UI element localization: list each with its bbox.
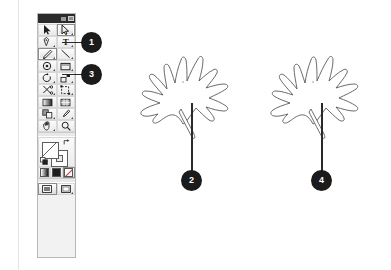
rotate-icon [42, 73, 52, 83]
leader-line-4 [321, 103, 323, 173]
callout-number: 4 [319, 176, 324, 185]
ellipse-icon [42, 61, 52, 71]
selection-arrow-icon [43, 25, 52, 35]
callout-number: 3 [89, 70, 94, 79]
leaf-anchor-point [182, 81, 184, 83]
callout-number: 1 [89, 38, 94, 47]
tool-rectangle[interactable] [57, 60, 76, 72]
blend-icon [42, 109, 53, 119]
left-leaf-artwork [124, 12, 242, 172]
tool-direct-selection[interactable] [57, 24, 76, 36]
paint-mode-row[interactable] [38, 167, 75, 178]
tools-panel[interactable]: T [37, 13, 76, 258]
tool-scissors[interactable] [38, 84, 57, 96]
callout-4[interactable]: 4 [312, 171, 331, 190]
callout-2[interactable]: 2 [182, 171, 201, 190]
tool-pen[interactable] [38, 36, 57, 48]
scissors-icon [42, 85, 53, 95]
callout-number: 2 [189, 176, 194, 185]
paint-none[interactable] [63, 167, 75, 178]
tool-hand[interactable] [38, 120, 57, 132]
tool-zoom[interactable] [57, 120, 76, 132]
paint-color[interactable] [50, 167, 62, 178]
screen-mode-row[interactable] [38, 183, 75, 195]
leader-line-2 [191, 103, 193, 173]
direct-selection-arrow-icon [61, 25, 70, 35]
tool-row[interactable] [38, 84, 75, 96]
tool-row[interactable] [38, 24, 75, 36]
paint-gradient[interactable] [38, 167, 50, 178]
screen-mode-normal[interactable] [38, 183, 57, 195]
screen-normal-icon [42, 185, 52, 193]
tool-rotate[interactable] [38, 72, 57, 84]
callout-3[interactable]: 3 [82, 65, 101, 84]
page-edge-rule [18, 0, 19, 270]
mesh-icon [60, 98, 71, 107]
tool-eyedropper[interactable] [57, 108, 76, 120]
tool-row[interactable] [38, 48, 75, 60]
tool-free-transform[interactable] [57, 84, 76, 96]
free-transform-icon [60, 85, 71, 95]
tool-mesh[interactable] [57, 96, 76, 108]
screen-full-icon [61, 185, 71, 193]
tool-pencil[interactable] [38, 48, 57, 60]
magnifier-icon [61, 121, 71, 131]
panel-grip-icon[interactable] [61, 17, 66, 21]
gradient-icon [42, 98, 53, 107]
tool-blend[interactable] [38, 108, 57, 120]
eyedropper-icon [60, 109, 71, 119]
close-icon[interactable] [68, 16, 74, 21]
leader-line-1 [62, 42, 84, 43]
leaf-anchor-point [312, 81, 314, 83]
rectangle-icon [60, 62, 71, 71]
screenshot-stage: T [0, 0, 391, 270]
line-segment-icon [60, 49, 71, 59]
tool-row[interactable] [38, 120, 75, 132]
leader-line-3 [62, 74, 84, 75]
tool-row[interactable] [38, 60, 75, 72]
pen-icon [42, 37, 52, 47]
default-fill-stroke-icon[interactable] [40, 157, 48, 165]
tool-ellipse[interactable] [38, 60, 57, 72]
pencil-icon [42, 49, 53, 60]
tool-row[interactable] [38, 96, 75, 108]
fill-stroke-control[interactable] [38, 137, 75, 167]
tools-grid[interactable]: T [38, 23, 75, 195]
right-leaf-artwork [254, 12, 372, 172]
tools-panel-titlebar[interactable] [38, 14, 75, 23]
tool-selection[interactable] [38, 24, 57, 36]
swap-fill-stroke-icon[interactable] [63, 139, 71, 147]
hand-icon [42, 121, 52, 131]
callout-1[interactable]: 1 [82, 33, 101, 52]
tool-line-segment[interactable] [57, 48, 76, 60]
tool-gradient[interactable] [38, 96, 57, 108]
fill-diagonal-line [42, 142, 57, 157]
tool-row[interactable] [38, 108, 75, 120]
screen-mode-full[interactable] [57, 183, 76, 195]
